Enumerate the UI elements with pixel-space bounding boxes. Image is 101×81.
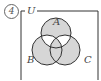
set-label-b: B [26,54,34,65]
set-label-a: A [52,16,60,27]
venn-diagram: U A B C [0,0,101,81]
universe-label: U [27,5,36,16]
set-label-c: C [84,54,92,65]
